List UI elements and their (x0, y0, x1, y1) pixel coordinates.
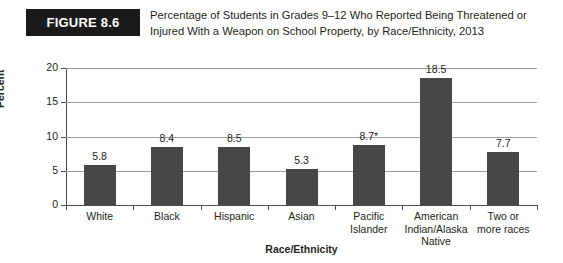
y-tick-label: 20 (18, 61, 58, 73)
x-category-label-line: Two or (467, 210, 539, 223)
x-category-label-line: Black (131, 210, 203, 223)
x-category-label-line: Pacific (333, 210, 405, 223)
bar (151, 147, 183, 205)
bar-value-label: 18.5 (406, 63, 466, 75)
y-tick-label: 0 (18, 198, 58, 210)
bar-value-label: 5.8 (70, 150, 130, 162)
x-category-label-line: Islander (333, 223, 405, 236)
x-category-label-line: Native (400, 235, 472, 248)
x-axis-line (66, 205, 538, 206)
x-category-label-line: Asian (266, 210, 338, 223)
x-tick-mark (335, 205, 336, 210)
x-category-label: Asian (266, 210, 338, 223)
x-tick-mark (201, 205, 202, 210)
bar-value-label: 7.7 (473, 137, 533, 149)
x-category-label-line: more races (467, 223, 539, 236)
x-axis-title: Race/Ethnicity (232, 243, 372, 255)
bar (218, 147, 250, 205)
x-category-label-line: American (400, 210, 472, 223)
x-category-label-line: Indian/Alaska (400, 223, 472, 236)
gridline (66, 102, 537, 103)
bar-value-label: 8.4 (137, 132, 197, 144)
figure-container: FIGURE 8.6 Percentage of Students in Gra… (0, 0, 563, 263)
x-tick-mark (133, 205, 134, 210)
bar (286, 169, 318, 205)
y-tick-label: 15 (18, 95, 58, 107)
bar-value-label: 8.5 (204, 132, 264, 144)
bar (84, 165, 116, 205)
x-category-label-line: White (64, 210, 136, 223)
bar (353, 145, 385, 205)
chart-plot: Percent 05101520 5.88.48.55.38.7*18.57.7… (0, 0, 563, 263)
x-category-label: Two ormore races (467, 210, 539, 235)
gridline (66, 68, 537, 69)
x-category-label: White (64, 210, 136, 223)
y-tick-label: 10 (18, 130, 58, 142)
x-category-label: PacificIslander (333, 210, 405, 235)
x-tick-mark (268, 205, 269, 210)
y-axis-title: Percent (0, 69, 6, 108)
x-tick-mark (66, 205, 67, 210)
x-category-label: AmericanIndian/AlaskaNative (400, 210, 472, 248)
x-tick-mark (402, 205, 403, 210)
bar-value-label: 8.7* (339, 130, 399, 142)
x-category-label: Black (131, 210, 203, 223)
x-category-label-line: Hispanic (198, 210, 270, 223)
x-tick-mark (470, 205, 471, 210)
x-tick-mark (537, 205, 538, 210)
y-tick-label: 5 (18, 164, 58, 176)
x-category-label: Hispanic (198, 210, 270, 223)
bar-value-label: 5.3 (272, 154, 332, 166)
bar (420, 78, 452, 205)
bar (487, 152, 519, 205)
